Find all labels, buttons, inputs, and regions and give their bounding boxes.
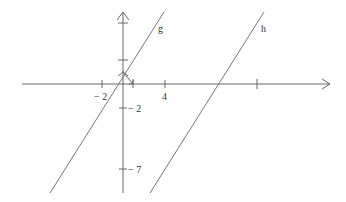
- line-h-label: h: [261, 23, 266, 34]
- x-axis: [22, 79, 330, 89]
- unit-vectors: [118, 72, 133, 88]
- y-tick-label-neg7: − 7: [128, 164, 141, 175]
- x-tick-label-4: 4: [162, 91, 167, 102]
- line-g-label: g: [158, 23, 163, 34]
- y-tick-label-neg2: − 2: [128, 103, 141, 114]
- coordinate-plane: g h − 2 4 − 2 − 7: [0, 0, 346, 202]
- line-g: [50, 12, 164, 193]
- line-h: [150, 12, 264, 193]
- x-tick-label-neg2: − 2: [94, 91, 107, 102]
